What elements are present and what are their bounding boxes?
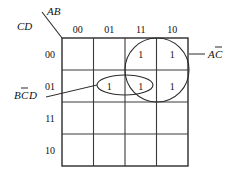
- cell-value-r01-c11: 1: [138, 81, 143, 92]
- group-label-bcd-c: C: [21, 89, 29, 101]
- group-label-ac-bar-a: A: [207, 48, 215, 60]
- cell-value-r01-c01: 1: [107, 81, 112, 92]
- row-header-00: 00: [45, 49, 55, 60]
- column-header-01: 01: [104, 24, 114, 35]
- left-variable-label: CD: [17, 20, 32, 32]
- row-header-01: 01: [45, 81, 55, 92]
- cell-value-r00-c10: 1: [170, 49, 175, 60]
- row-header-11: 11: [45, 113, 55, 124]
- cell-value-r01-c10: 1: [170, 81, 175, 92]
- karnaugh-map-figure: AB CD 00 01 11 10 00 01 11 10 1 1 1 1 1: [0, 0, 234, 173]
- group-label-bcd-d: D: [28, 89, 37, 101]
- group-label-ac-bar-c: C: [215, 48, 223, 60]
- top-variable-label: AB: [46, 5, 61, 17]
- column-header-11: 11: [136, 24, 146, 35]
- column-header-10: 10: [167, 24, 177, 35]
- karnaugh-map-canvas: AB CD 00 01 11 10 00 01 11 10 1 1 1 1 1: [0, 0, 234, 173]
- group-label-bcd-b: B: [14, 89, 21, 101]
- cell-value-r00-c11: 1: [138, 49, 143, 60]
- row-header-10: 10: [45, 145, 55, 156]
- column-header-00: 00: [73, 24, 83, 35]
